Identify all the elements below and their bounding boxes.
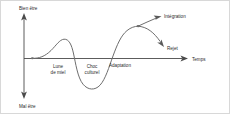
x-axis <box>24 55 188 61</box>
culture-shock-diagram: Bien être Mal être Temps Lune de miel Ch… <box>0 0 230 114</box>
y-axis-bottom-label: Mal être <box>19 104 36 109</box>
rejet-arrowhead <box>157 39 164 47</box>
stage-label-choc-culturel-line1: Choc <box>87 64 98 69</box>
y-axis <box>21 13 27 99</box>
stage-label-lune-de-miel-line1: Lune <box>53 64 64 69</box>
curve-start-marker <box>31 57 34 59</box>
x-axis-label: Temps <box>192 57 206 62</box>
culture-shock-curve <box>33 26 139 89</box>
stage-label-adaptation: Adaptation <box>109 63 131 68</box>
stage-label-choc-culturel-line2: culturel <box>85 70 100 75</box>
integration-arrowhead <box>154 16 162 20</box>
rejet-branch <box>138 26 164 47</box>
stage-label-lune-de-miel-line2: de miel <box>51 70 66 75</box>
outcome-label-rejet: Rejet <box>167 46 178 51</box>
y-axis-top-label: Bien être <box>19 6 38 11</box>
integration-branch <box>138 16 162 27</box>
outcome-label-integration: Intégration <box>164 14 186 19</box>
